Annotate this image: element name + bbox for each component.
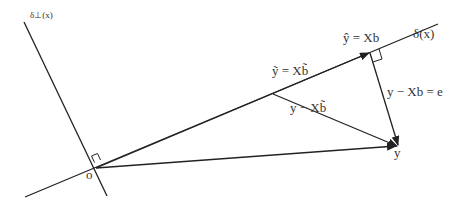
- projection-label: ŷ = Xb: [343, 31, 379, 44]
- origin-right-angle-marker: [92, 154, 101, 163]
- residual-line: [370, 53, 398, 145]
- residual-label: y − Xb = e: [387, 85, 443, 98]
- other-fit-label: ỹ = Xb̃: [272, 64, 308, 77]
- diagram-svg: [0, 0, 468, 210]
- orthogonal-complement-label: δ⊥(x): [30, 11, 53, 20]
- orthogonal-complement-line: [24, 22, 107, 196]
- regression-projection-diagram: δ⊥(x) δ(x) ŷ = Xb ỹ = Xb̃ y − Xb̃ y − Xb…: [0, 0, 468, 210]
- point-y-label: y: [394, 146, 401, 159]
- origin-label: o: [86, 168, 93, 181]
- subspace-label: δ(x): [413, 27, 434, 40]
- other-residual-label: y − Xb̃: [290, 101, 326, 114]
